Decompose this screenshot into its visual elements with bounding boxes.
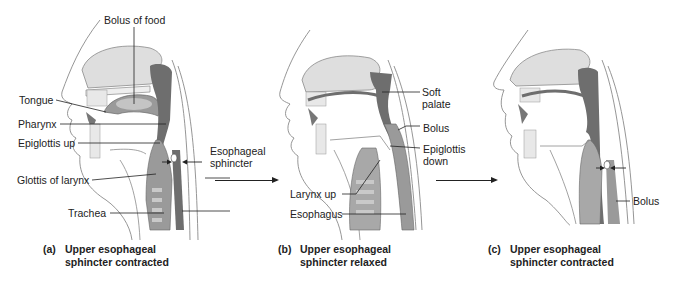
label-larynx-up: Larynx up (290, 188, 336, 200)
caption-a-line2: sphincter contracted (65, 256, 169, 269)
label-glottis-of-larynx: Glottis of larynx (17, 174, 89, 186)
head-sagittal-illustration-b (230, 0, 450, 240)
caption-b-line1: Upper esophageal (300, 243, 391, 256)
caption-c: (c) Upper esophageal sphincter contracte… (510, 243, 614, 269)
label-trachea: Trachea (68, 207, 106, 219)
label-epiglottis-up: Epiglottis up (18, 137, 75, 149)
label-bolus-of-food: Bolus of food (104, 14, 165, 26)
caption-c-line1: Upper esophageal (510, 243, 614, 256)
label-tongue: Tongue (19, 94, 53, 106)
caption-b-line2: sphincter relaxed (300, 256, 391, 269)
caption-a-line1: Upper esophageal (65, 243, 169, 256)
label-bolus-b: Bolus (423, 122, 449, 134)
caption-letter-b: (b) (278, 243, 291, 256)
panel-c: Bolus (c) Upper esophageal sphincter con… (450, 0, 677, 283)
panel-b: Soft palate Bolus Epiglottis down Larynx… (230, 0, 450, 283)
caption-letter-c: (c) (488, 243, 501, 256)
caption-a: (a) Upper esophageal sphincter contracte… (65, 243, 169, 269)
label-pharynx: Pharynx (18, 118, 57, 130)
caption-b: (b) Upper esophageal sphincter relaxed (300, 243, 391, 269)
panel-a: Bolus of food Tongue Pharynx Epiglottis … (0, 0, 230, 283)
label-bolus-c: Bolus (633, 195, 659, 207)
caption-c-line2: sphincter contracted (510, 256, 614, 269)
label-soft-palate: Soft palate (422, 86, 451, 110)
label-esophagus: Esophagus (290, 208, 343, 220)
caption-letter-a: (a) (43, 243, 56, 256)
